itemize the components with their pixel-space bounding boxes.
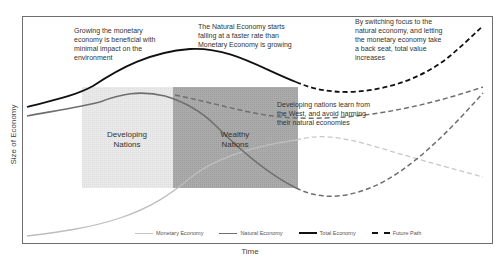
legend-label: Natural Economy [240, 230, 282, 236]
annotation-line: natural economy, and letting [355, 26, 442, 35]
legend-label: Monetary Economy [156, 230, 203, 236]
annotation-line: minimal impact on the [74, 44, 155, 53]
region-label-line: Nations [92, 140, 162, 150]
annotation-line: The Natural Economy starts [198, 22, 292, 31]
legend-item-total: Total Economy [299, 230, 356, 236]
x-axis-label: Time [0, 247, 500, 256]
legend-swatch-natural [219, 233, 237, 234]
wealthy-nations-label: Wealthy Nations [200, 130, 270, 150]
legend-swatch-monetary [135, 233, 153, 234]
monetary-economy-future-line [296, 137, 483, 177]
annotation-line: a back seat, total value [355, 44, 442, 53]
region-label-line: Wealthy [200, 130, 270, 140]
annotation-line: the West, and avoid harming [277, 109, 370, 118]
annotation-developing-learn: Developing nations learn from the West, … [277, 100, 370, 127]
legend-swatch-total [299, 232, 317, 234]
annotation-natural-falling: The Natural Economy starts falling at a … [198, 22, 292, 49]
annotation-switching: By switching focus to the natural econom… [355, 17, 442, 62]
region-label-line: Developing [92, 130, 162, 140]
annotation-line: the monetary economy take [355, 35, 442, 44]
developing-nations-label: Developing Nations [92, 130, 162, 150]
annotation-line: Monetary Economy is growing [198, 40, 292, 49]
annotation-line: their natural economies [277, 118, 370, 127]
annotation-line: economy is beneficial with [74, 35, 155, 44]
legend: Monetary Economy Natural Economy Total E… [135, 230, 421, 236]
legend-item-future: Future Path [372, 230, 422, 236]
annotation-line: Growing the monetary [74, 26, 155, 35]
annotation-line: Developing nations learn from [277, 100, 370, 109]
annotation-line: environment [74, 53, 155, 62]
annotation-line: By switching focus to the [355, 17, 442, 26]
legend-item-natural: Natural Economy [219, 230, 282, 236]
legend-label: Total Economy [320, 230, 356, 236]
legend-item-monetary: Monetary Economy [135, 230, 203, 236]
y-axis-label: Size of Economy [9, 100, 18, 170]
annotation-line: increases [355, 53, 442, 62]
legend-swatch-future [372, 232, 390, 234]
annotation-line: falling at a faster rate than [198, 31, 292, 40]
legend-label: Future Path [393, 230, 422, 236]
annotation-growing: Growing the monetary economy is benefici… [74, 26, 155, 62]
region-label-line: Nations [200, 140, 270, 150]
